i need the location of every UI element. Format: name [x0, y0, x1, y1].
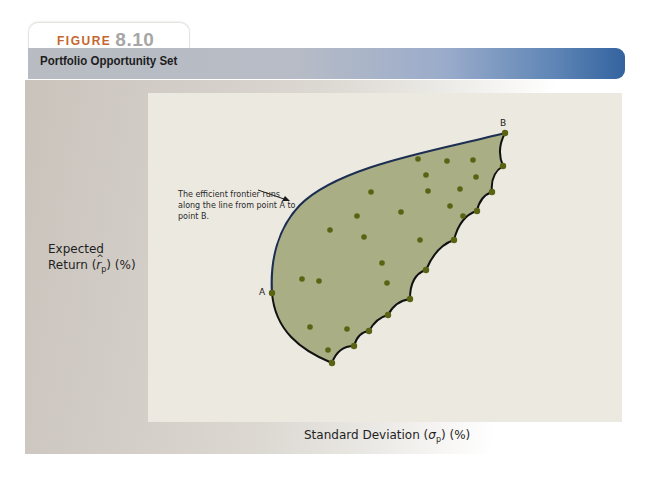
y-axis-label-line2: Return (rp) (%) — [48, 257, 136, 278]
x-label-symbol: σ — [428, 428, 436, 442]
y-label-suffix: ) (%) — [106, 258, 135, 272]
y-label-symbol: r — [96, 258, 101, 272]
efficient-frontier-annotation: The efficient frontier runs along the li… — [178, 189, 298, 222]
opportunity-set-region — [272, 133, 505, 363]
chart-graphic — [0, 0, 653, 479]
x-label-prefix: Standard Deviation ( — [304, 428, 428, 442]
y-axis-label-line1: Expected — [48, 241, 136, 257]
x-label-suffix: ) (%) — [441, 428, 470, 442]
point-b-label: B — [500, 118, 506, 128]
x-axis-label: Standard Deviation (σp) (%) — [304, 428, 470, 444]
y-axis-label: Expected Return (rp) (%) — [48, 241, 136, 278]
point-a-label: A — [259, 287, 265, 297]
y-label-prefix: Return ( — [48, 258, 96, 272]
